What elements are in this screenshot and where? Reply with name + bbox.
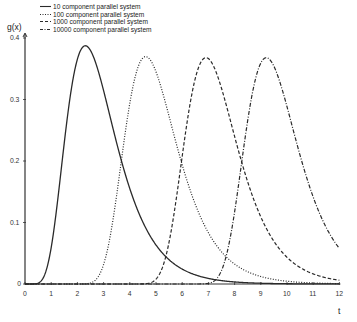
x-tick-label: 11 <box>309 290 316 297</box>
x-tick-label: 4 <box>128 290 132 297</box>
x-axis-label: t <box>338 306 340 316</box>
x-tick-label: 9 <box>259 290 263 297</box>
legend-item-10: 10 component parallel system <box>40 3 152 11</box>
x-tick-label: 2 <box>75 290 79 297</box>
y-tick-label: 0 <box>17 280 21 287</box>
dotted-line-icon <box>40 11 51 18</box>
y-tick-label: 0.2 <box>10 157 19 164</box>
dashed-line-icon <box>40 18 51 25</box>
legend-item-10000: 10000 component parallel system <box>40 26 152 34</box>
x-tick-label: 1 <box>49 290 53 297</box>
legend: 10 component parallel system 100 compone… <box>40 3 152 33</box>
legend-item-1000: 1000 component parallel system <box>40 18 152 26</box>
curve-1000 <box>25 58 339 284</box>
legend-label: 1000 component parallel system <box>53 18 148 26</box>
legend-label: 10000 component parallel system <box>53 26 152 34</box>
x-tick-label: 0 <box>23 290 27 297</box>
curve-10000 <box>25 58 339 284</box>
x-tick-label: 3 <box>102 290 106 297</box>
legend-item-100: 100 component parallel system <box>40 11 152 19</box>
dashdot-line-icon <box>40 26 51 33</box>
curve-100 <box>25 57 339 284</box>
y-tick-label: 0.3 <box>10 96 19 103</box>
x-tick-label: 12 <box>335 290 343 297</box>
solid-line-icon <box>40 3 51 10</box>
y-tick-label: 0.4 <box>10 34 19 41</box>
y-tick-label: 0.1 <box>10 219 19 226</box>
x-tick-label: 7 <box>206 290 210 297</box>
legend-label: 10 component parallel system <box>53 3 141 11</box>
curves <box>25 46 339 284</box>
x-tick-label: 8 <box>233 290 237 297</box>
legend-label: 100 component parallel system <box>53 11 144 19</box>
chart-canvas <box>0 0 357 322</box>
y-axis-label: g(x) <box>7 22 22 32</box>
x-tick-label: 6 <box>180 290 184 297</box>
x-tick-label: 10 <box>283 290 291 297</box>
x-tick-label: 5 <box>154 290 158 297</box>
